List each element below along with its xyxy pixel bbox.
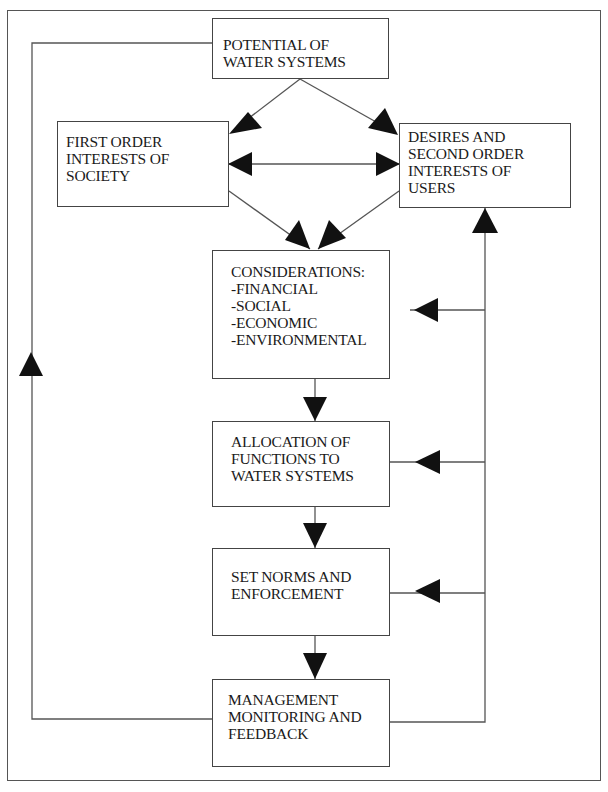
node-label: POTENTIAL OF (223, 36, 388, 53)
node-label: MANAGEMENT (228, 691, 389, 708)
connector-layer (0, 0, 608, 792)
arrowhead-icon (376, 152, 400, 176)
node-label: -ENVIRONMENTAL (231, 331, 389, 348)
arrowhead-icon (303, 523, 327, 548)
node-label: SET NORMS AND (231, 568, 389, 585)
node-label: USERS (408, 179, 570, 196)
node-label: CONSIDERATIONS: (231, 263, 389, 280)
node-label: ALLOCATION OF (231, 433, 389, 450)
arrowhead-icon (228, 152, 252, 176)
node-label: ENFORCEMENT (231, 585, 389, 602)
node-label: -SOCIAL (231, 297, 389, 314)
node-allocation-of-functions: ALLOCATION OF FUNCTIONS TO WATER SYSTEMS (212, 421, 390, 507)
arrowhead-icon (303, 397, 327, 421)
node-considerations: CONSIDERATIONS: -FINANCIAL -SOCIAL -ECON… (212, 250, 390, 379)
arrowhead-icon (368, 108, 398, 135)
arrowhead-icon (414, 298, 438, 322)
node-label: -FINANCIAL (231, 280, 389, 297)
node-label: FIRST ORDER (66, 133, 228, 150)
arrowhead-icon (303, 653, 327, 679)
node-label: WATER SYSTEMS (223, 53, 388, 70)
arrowhead-icon (19, 352, 43, 376)
arrowhead-icon (229, 112, 262, 134)
node-label: INTERESTS OF (408, 162, 570, 179)
arrowhead-icon (318, 220, 346, 249)
node-label: WATER SYSTEMS (231, 467, 389, 484)
node-label: SOCIETY (66, 167, 228, 184)
node-label: -ECONOMIC (231, 314, 389, 331)
arrowhead-icon (415, 579, 440, 603)
arrowhead-icon (415, 450, 440, 474)
node-first-order-interests: FIRST ORDER INTERESTS OF SOCIETY (57, 121, 229, 207)
node-label: FEEDBACK (228, 725, 389, 742)
node-potential-of-water-systems: POTENTIAL OF WATER SYSTEMS (212, 18, 389, 79)
node-set-norms-enforcement: SET NORMS AND ENFORCEMENT (212, 548, 390, 636)
node-management-monitoring-feedback: MANAGEMENT MONITORING AND FEEDBACK (212, 679, 390, 767)
node-label: FUNCTIONS TO (231, 450, 389, 467)
node-label: SECOND ORDER (408, 145, 570, 162)
node-label: DESIRES AND (408, 128, 570, 145)
node-label: INTERESTS OF (66, 150, 228, 167)
node-label: MONITORING AND (228, 708, 389, 725)
arrowhead-icon (472, 208, 498, 233)
node-desires-second-order-interests: DESIRES AND SECOND ORDER INTERESTS OF US… (399, 123, 571, 208)
